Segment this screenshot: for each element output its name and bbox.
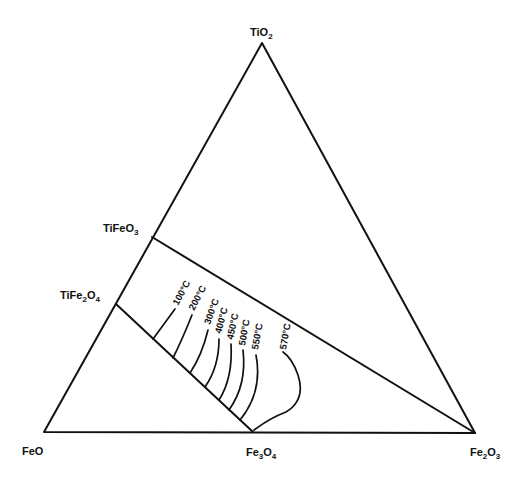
isotherm-550 (240, 355, 258, 420)
isotherm-300 (190, 330, 208, 373)
isotherm-label: 570°C (277, 322, 292, 350)
ternary-triangle (44, 43, 475, 433)
vertex-label-feo: FeO (22, 445, 44, 457)
isotherm-labels: 100°C 200°C 300°C 400°C 450°C 500°C 550°… (170, 278, 293, 350)
isotherm-label: 550°C (249, 322, 264, 350)
isotherm-450 (219, 344, 231, 400)
isotherm-400 (205, 339, 219, 387)
ilmenite-hematite-join (152, 237, 475, 433)
point-label-fe3o4: Fe3O4 (246, 446, 277, 461)
point-label-tife2o4: TiFe2O4 (60, 289, 100, 304)
isotherm-200 (173, 315, 192, 358)
ternary-diagram: 100°C 200°C 300°C 400°C 450°C 500°C 550°… (0, 0, 523, 485)
vertex-label-tio2: TiO2 (250, 26, 273, 41)
isotherm-570 (254, 352, 300, 430)
isotherm-100 (153, 309, 175, 339)
point-label-tifeo3: TiFeO3 (103, 222, 139, 237)
vertex-label-fe2o3: Fe2O3 (470, 446, 501, 461)
